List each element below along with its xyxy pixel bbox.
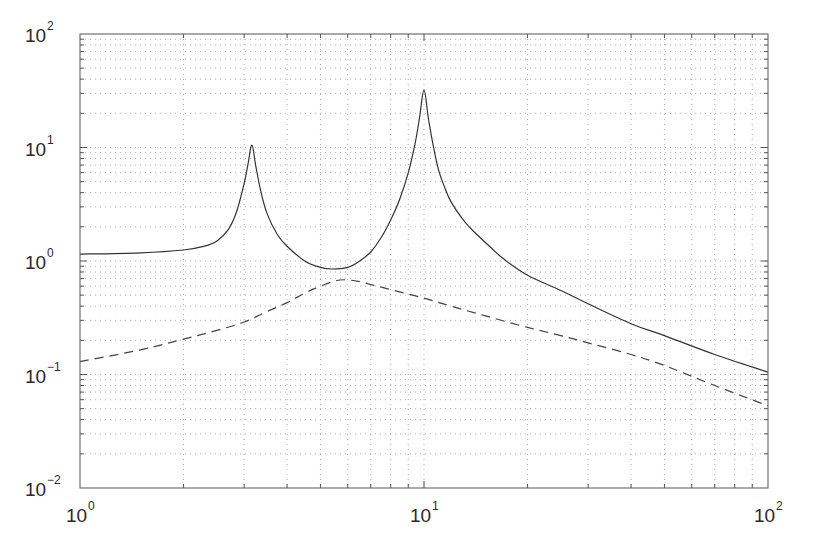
- y-tick-label-exponent: −2: [47, 473, 61, 487]
- y-tick-label: 10: [25, 252, 46, 273]
- x-tick-label: 10: [66, 505, 87, 526]
- y-tick-label: 10: [25, 139, 46, 160]
- y-tick-label: 10: [25, 479, 46, 500]
- y-axis-tick-labels: 10−210−1100101102: [25, 19, 61, 500]
- x-tick-label: 10: [410, 505, 431, 526]
- y-tick-label-exponent: 0: [47, 246, 54, 260]
- x-axis-tick-labels: 100101102: [66, 499, 783, 526]
- x-tick-label-exponent: 0: [88, 499, 95, 513]
- y-tick-label: 10: [25, 25, 46, 46]
- x-tick-label: 10: [754, 505, 775, 526]
- x-tick-label-exponent: 1: [432, 499, 439, 513]
- dashed-series-line: [80, 280, 768, 406]
- y-tick-label-exponent: 1: [47, 133, 54, 147]
- x-tick-label-exponent: 2: [776, 499, 783, 513]
- series-layer: [80, 90, 768, 406]
- y-tick-label-exponent: 2: [47, 19, 54, 33]
- y-tick-label-exponent: −1: [47, 360, 61, 374]
- frequency-response-chart: 100101102 10−210−1100101102: [0, 0, 813, 545]
- y-tick-label: 10: [25, 366, 46, 387]
- grid-lines: [80, 34, 768, 488]
